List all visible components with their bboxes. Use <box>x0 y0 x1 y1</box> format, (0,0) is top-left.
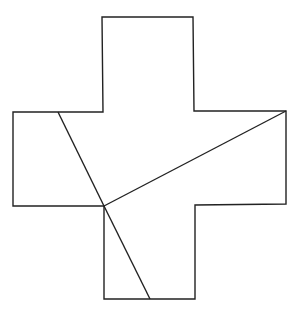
cut-center-to-right-corner <box>104 111 286 206</box>
cut-center-to-lower <box>104 206 150 299</box>
diagram-canvas <box>0 0 299 310</box>
cut-upper-left-to-center <box>58 112 104 206</box>
cross-outline <box>13 17 286 299</box>
cross-dissection-figure <box>0 0 299 310</box>
